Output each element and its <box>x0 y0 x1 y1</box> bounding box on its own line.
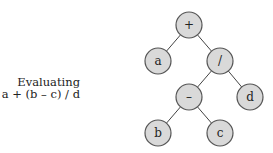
tree-node-b: b <box>145 120 171 146</box>
tree-edge-plus-div <box>197 35 211 51</box>
node-label: c <box>217 126 224 140</box>
tree-node-div: / <box>207 48 233 74</box>
expression-tree: +a/–dbc <box>0 0 273 153</box>
node-label: + <box>184 18 194 32</box>
tree-node-a: a <box>145 48 171 74</box>
node-label: d <box>246 90 254 104</box>
node-label: – <box>186 90 192 104</box>
tree-node-c: c <box>207 120 233 146</box>
tree-edges <box>166 35 241 123</box>
tree-node-minus: – <box>176 84 202 110</box>
tree-edge-div-d <box>228 71 241 87</box>
node-label: a <box>154 54 161 68</box>
tree-node-plus: + <box>176 12 202 38</box>
tree-edge-minus-c <box>197 107 211 123</box>
tree-edge-div-minus <box>197 71 211 87</box>
tree-edge-minus-b <box>166 107 180 123</box>
node-label: b <box>154 126 162 140</box>
tree-node-d: d <box>237 84 263 110</box>
tree-edge-plus-a <box>166 35 180 51</box>
